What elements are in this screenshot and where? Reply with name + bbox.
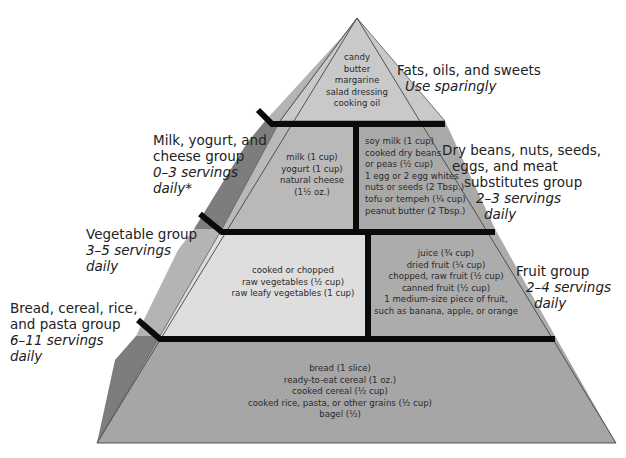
label-bread-servings: 6–11 servings bbox=[10, 332, 137, 348]
fats-item: margarine bbox=[300, 75, 414, 87]
milk-item: milk (1 cup) bbox=[272, 152, 352, 164]
label-bread: Bread, cereal, rice, and pasta group 6–1… bbox=[10, 300, 137, 364]
fats-item: salad dressing bbox=[300, 87, 414, 99]
meat-item: tofu or tempeh (¹⁄₄ cup) bbox=[365, 194, 475, 206]
label-milk-line1: Milk, yogurt, and bbox=[153, 132, 267, 148]
label-fats-title: Fats, oils, and sweets bbox=[397, 62, 541, 78]
bread-item: cooked cereal (¹⁄₂ cup) bbox=[230, 386, 450, 398]
label-veg-daily: daily bbox=[86, 258, 197, 274]
vegetable-item: raw vegetables (¹⁄₂ cup) bbox=[218, 277, 368, 289]
fruit-item: 1 medium-size piece of fruit, bbox=[370, 294, 522, 306]
label-fats-servings: Use sparingly bbox=[397, 78, 541, 94]
label-fruit-title: Fruit group bbox=[516, 263, 611, 279]
bread-item: bread (1 slice) bbox=[230, 363, 450, 375]
milk-items: milk (1 cup) yogurt (1 cup) natural chee… bbox=[272, 152, 352, 198]
fruit-item: juice (³⁄₄ cup) bbox=[370, 248, 522, 260]
meat-item: 1 egg or 2 egg whites bbox=[365, 171, 475, 183]
fats-item: candy bbox=[300, 52, 414, 64]
meat-item: cooked dry beans bbox=[365, 148, 475, 160]
meat-item: peanut butter (2 Tbsp.) bbox=[365, 206, 475, 218]
bread-item: bagel (¹⁄₂) bbox=[230, 409, 450, 421]
label-milk-servings: 0–3 servings bbox=[153, 164, 267, 180]
vegetable-item: raw leafy vegetables (1 cup) bbox=[218, 288, 368, 300]
milk-item: yogurt (1 cup) bbox=[272, 164, 352, 176]
label-fats: Fats, oils, and sweets Use sparingly bbox=[397, 62, 541, 94]
bread-item: cooked rice, pasta, or other grains (¹⁄₂… bbox=[230, 398, 450, 410]
bread-items: bread (1 slice) ready-to-eat cereal (1 o… bbox=[230, 363, 450, 421]
label-bread-line1: Bread, cereal, rice, bbox=[10, 300, 137, 316]
label-veg-servings: 3–5 servings bbox=[86, 242, 197, 258]
milk-item: (1¹⁄₂ oz.) bbox=[272, 187, 352, 199]
bread-item: ready-to-eat cereal (1 oz.) bbox=[230, 375, 450, 387]
fats-item: cooking oil bbox=[300, 98, 414, 110]
label-milk-line2: cheese group bbox=[153, 148, 267, 164]
fruit-item: dried fruit (¹⁄₄ cup) bbox=[370, 260, 522, 272]
label-veg-title: Vegetable group bbox=[86, 226, 197, 242]
label-vegetable: Vegetable group 3–5 servings daily bbox=[86, 226, 197, 274]
label-bread-line2: and pasta group bbox=[10, 316, 137, 332]
label-fruit-daily: daily bbox=[516, 295, 611, 311]
label-fruit-servings: 2–4 servings bbox=[516, 279, 611, 295]
meat-item: soy milk (1 cup) bbox=[365, 136, 475, 148]
fruit-items: juice (³⁄₄ cup) dried fruit (¹⁄₄ cup) ch… bbox=[370, 248, 522, 318]
meat-items: soy milk (1 cup) cooked dry beans or pea… bbox=[365, 136, 475, 217]
fruit-item: such as banana, apple, or orange bbox=[370, 306, 522, 318]
vegetable-item: cooked or chopped bbox=[218, 265, 368, 277]
label-milk: Milk, yogurt, and cheese group 0–3 servi… bbox=[153, 132, 267, 196]
label-milk-daily: daily* bbox=[153, 180, 267, 196]
meat-item: or peas (¹⁄₂ cup) bbox=[365, 159, 475, 171]
vegetable-items: cooked or chopped raw vegetables (¹⁄₂ cu… bbox=[218, 265, 368, 300]
milk-item: natural cheese bbox=[272, 175, 352, 187]
label-fruit: Fruit group 2–4 servings daily bbox=[516, 263, 611, 311]
fruit-item: canned fruit (¹⁄₂ cup) bbox=[370, 283, 522, 295]
fruit-item: chopped, raw fruit (¹⁄₂ cup) bbox=[370, 271, 522, 283]
fats-items: candy butter margarine salad dressing co… bbox=[300, 52, 414, 110]
fats-item: butter bbox=[300, 64, 414, 76]
meat-item: nuts or seeds (2 Tbsp.) bbox=[365, 182, 475, 194]
label-bread-daily: daily bbox=[10, 348, 137, 364]
